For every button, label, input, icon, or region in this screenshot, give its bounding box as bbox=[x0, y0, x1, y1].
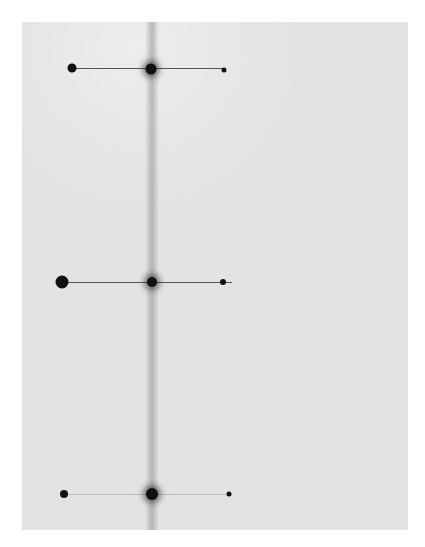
bottom-row-right-spot bbox=[227, 492, 232, 497]
middle-row-right-spot bbox=[220, 279, 226, 285]
photographic-plate bbox=[22, 22, 408, 530]
bottom-row-left-spot bbox=[60, 490, 68, 498]
middle-row-left-spot bbox=[56, 276, 69, 289]
top-row-center-spot bbox=[146, 64, 157, 75]
central-vertical-streak bbox=[145, 22, 159, 530]
top-row-right-spot bbox=[222, 68, 227, 73]
top-row-left-spot bbox=[68, 64, 77, 73]
bottom-row-center-spot bbox=[146, 488, 158, 500]
middle-row-center-spot bbox=[147, 277, 157, 287]
